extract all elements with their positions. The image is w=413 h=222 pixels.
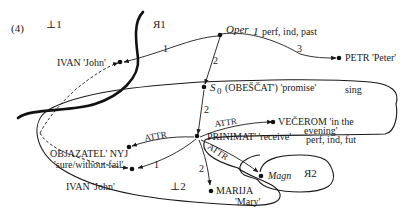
edge-label-prinimat-magn: ATTR (206, 141, 230, 162)
node-prinimat (195, 134, 200, 139)
region-label-r2: Я2 (304, 167, 317, 179)
example-number: (4) (11, 22, 24, 35)
label-magn: Magn (267, 170, 291, 181)
label-petr: PETR 'Peter' (345, 52, 396, 63)
node-ivan-bottom (130, 167, 135, 172)
region-label-l1: ⊥1 (46, 18, 62, 30)
edge-label-prinimat-objazatel: ATTR (144, 129, 168, 143)
edge-label-oper-s0: 2 (213, 55, 218, 66)
region-label-r1: Я1 (153, 18, 166, 30)
label-marija-line2: 'Mary' (235, 196, 260, 207)
edge-label-s0-prinimat: 2 (204, 104, 209, 115)
edge-prinimat-ivan (138, 139, 196, 168)
label-prinimat-gram: perf, ind, fut (306, 134, 356, 145)
node-s0 (202, 85, 207, 90)
edge-label-prinimat-ivan: 1 (154, 159, 159, 170)
label-ivan-bottom: IVAN 'John' (66, 181, 115, 192)
node-marija (209, 189, 214, 194)
label-s0-symbol: S (210, 81, 216, 93)
edge-label-oper-ivan: 1 (163, 43, 168, 54)
node-ivan-top (118, 60, 123, 65)
edge-label-prinimat-marija: 2 (199, 163, 204, 174)
label-marija-line1: MARIJA (216, 185, 254, 196)
node-magn (259, 174, 264, 179)
label-s0-rest: (OBEŠČAT') 'promise' (225, 82, 316, 94)
edge-label-oper-petr: 3 (297, 43, 302, 54)
label-objazatel-line1: OBJAZATEL' NYJ (50, 148, 128, 159)
node-oper (218, 33, 223, 38)
region-label-l2: ⊥2 (170, 180, 186, 192)
node-petr (337, 56, 342, 61)
label-s0-gram: sing (345, 84, 362, 95)
node-vecerom (271, 120, 276, 125)
label-oper-name: Oper (226, 23, 249, 35)
label-ivan-top: IVAN 'John' (57, 57, 106, 68)
label-s0-subscript: 0 (217, 86, 222, 96)
label-objazatel-line2: 'sure/without fail' (54, 159, 124, 170)
label-oper-gram: perf, ind, past (262, 26, 317, 37)
edge-label-prinimat-vecerom: ATTR (214, 116, 238, 129)
label-prinimat: PRINIMAT' 'receive' (207, 131, 291, 142)
dependency-tree-diagram: (4) ⊥1 Я1 ⊥2 Я2 1 3 2 2 ATTR ATTR 1 2 AT… (0, 0, 413, 222)
label-oper-index: 1 (253, 25, 259, 37)
